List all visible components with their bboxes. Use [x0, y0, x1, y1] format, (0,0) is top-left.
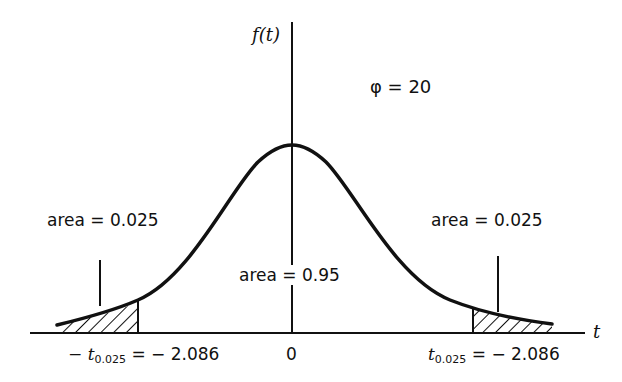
left-tail-area-label: area = 0.025 — [47, 210, 159, 230]
center-tick-label: 0 — [286, 344, 297, 364]
left-critical-value-label: − t0.025 = − 2.086 — [68, 344, 219, 366]
y-axis-label: f(t) — [252, 24, 280, 45]
right-critical-value-label: t0.025 = − 2.086 — [428, 344, 560, 366]
left-critical-prefix: − t — [68, 344, 94, 364]
right-critical-subscript: 0.025 — [435, 353, 467, 366]
right-critical-value: = − 2.086 — [466, 344, 559, 364]
right-tail-area-label: area = 0.025 — [431, 210, 543, 230]
right-critical-prefix: t — [428, 344, 435, 364]
x-axis-label: t — [593, 321, 600, 342]
t-distribution-diagram — [0, 0, 622, 382]
degrees-of-freedom-label: φ = 20 — [370, 76, 431, 97]
left-critical-value: = − 2.086 — [126, 344, 219, 364]
center-area-label: area = 0.95 — [237, 265, 342, 285]
left-critical-subscript: 0.025 — [94, 353, 126, 366]
density-curve — [57, 145, 552, 325]
